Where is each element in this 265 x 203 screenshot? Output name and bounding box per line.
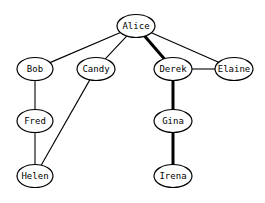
edge-alice-candy [105, 36, 126, 59]
node-fred: Fred [17, 110, 53, 133]
node-label: Fred [24, 116, 46, 126]
node-label: Helen [21, 171, 48, 181]
node-label: Candy [82, 64, 110, 74]
graph-diagram: AliceBobCandyDerekElaineFredGinaHelenIre… [0, 0, 265, 203]
node-label: Bob [27, 64, 43, 74]
edge-alice-bob [50, 33, 120, 63]
node-label: Gina [162, 116, 184, 126]
node-label: Irena [159, 171, 186, 181]
node-label: Derek [159, 64, 187, 74]
edges [35, 33, 219, 166]
node-elaine: Elaine [215, 58, 253, 81]
edge-alice-derek [145, 36, 164, 59]
node-alice: Alice [117, 15, 155, 38]
node-gina: Gina [154, 110, 192, 133]
node-bob: Bob [17, 58, 53, 81]
node-label: Elaine [218, 64, 251, 74]
node-candy: Candy [77, 58, 115, 81]
node-derek: Derek [154, 58, 192, 81]
node-helen: Helen [17, 165, 53, 188]
node-label: Alice [122, 21, 149, 31]
nodes: AliceBobCandyDerekElaineFredGinaHelenIre… [17, 15, 253, 188]
node-irena: Irena [154, 165, 192, 188]
